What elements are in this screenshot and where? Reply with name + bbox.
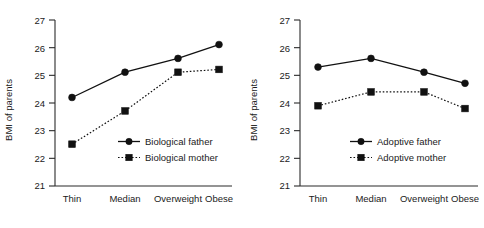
x-tick-label-median-left: Median (109, 193, 140, 204)
data-point-biological-mother-obese (216, 66, 223, 73)
legend-marker-adoptive-mother (358, 154, 364, 160)
data-point-adoptive-mother-median (368, 89, 375, 96)
data-point-biological-mother-median (122, 108, 129, 115)
data-point-adoptive-father-overweight (421, 69, 428, 76)
x-tick-label-median-right: Median (355, 193, 386, 204)
y-axis-title-left: BMI of parents (3, 79, 14, 141)
data-point-biological-father-obese (216, 41, 223, 48)
y-tick-label-22-right: 22 (279, 153, 290, 164)
data-point-biological-mother-overweight (175, 69, 182, 76)
legend-label-adoptive-father: Adoptive father (377, 136, 441, 147)
legend-marker-biological-mother (126, 154, 132, 160)
y-tick-label-26-left: 26 (34, 43, 45, 54)
legend-label-biological-father: Biological father (145, 136, 213, 147)
chart-panel-left: BMI of parents 27 26 25 24 23 22 21 (0, 0, 242, 228)
data-point-biological-mother-thin (69, 141, 76, 148)
data-point-adoptive-father-obese (462, 80, 469, 87)
legend-left: Biological father Biological mother (118, 136, 218, 163)
y-tick-label-27-right: 27 (279, 15, 290, 26)
left-panel-svg: BMI of parents 27 26 25 24 23 22 21 (0, 0, 242, 228)
x-tick-label-obese-right: Obese (451, 193, 479, 204)
x-tick-label-overweight-right: Overweight (400, 193, 448, 204)
x-tick-label-obese-left: Obese (205, 193, 233, 204)
y-axis-title-right: BMI of parents (248, 79, 259, 141)
y-tick-label-21-right: 21 (279, 180, 290, 191)
x-tick-label-thin-right: Thin (309, 193, 327, 204)
series-line-adoptive-mother (318, 92, 465, 109)
x-tick-label-overweight-left: Overweight (154, 193, 202, 204)
y-tick-label-27-left: 27 (34, 15, 45, 26)
data-point-adoptive-father-thin (315, 64, 322, 71)
data-point-biological-father-thin (69, 94, 76, 101)
data-point-adoptive-father-median (368, 55, 375, 62)
legend-marker-adoptive-father (358, 138, 364, 144)
data-point-biological-father-overweight (175, 55, 182, 62)
y-tick-label-24-left: 24 (34, 98, 45, 109)
two-panel-line-chart-figure: BMI of parents 27 26 25 24 23 22 21 (0, 0, 484, 228)
legend-marker-biological-father (126, 138, 132, 144)
legend-right: Adoptive father Adoptive mother (350, 136, 446, 163)
y-tick-label-23-right: 23 (279, 125, 290, 136)
y-tick-label-21-left: 21 (34, 180, 45, 191)
data-point-adoptive-mother-obese (462, 105, 469, 112)
data-point-adoptive-mother-overweight (421, 89, 428, 96)
y-tick-label-25-left: 25 (34, 70, 45, 81)
legend-label-adoptive-mother: Adoptive mother (377, 152, 446, 163)
chart-panel-right: BMI of parents 27 26 25 24 23 22 21 (242, 0, 484, 228)
y-tick-label-26-right: 26 (279, 43, 290, 54)
y-tick-label-22-left: 22 (34, 153, 45, 164)
y-tick-label-25-right: 25 (279, 70, 290, 81)
legend-label-biological-mother: Biological mother (145, 152, 218, 163)
y-tick-label-23-left: 23 (34, 125, 45, 136)
y-tick-label-24-right: 24 (279, 98, 290, 109)
right-panel-svg: BMI of parents 27 26 25 24 23 22 21 (242, 0, 484, 228)
x-tick-label-thin-left: Thin (63, 193, 81, 204)
series-line-biological-mother (72, 69, 219, 144)
series-line-adoptive-father (318, 58, 465, 83)
data-point-biological-father-median (122, 69, 129, 76)
data-point-adoptive-mother-thin (315, 102, 322, 109)
